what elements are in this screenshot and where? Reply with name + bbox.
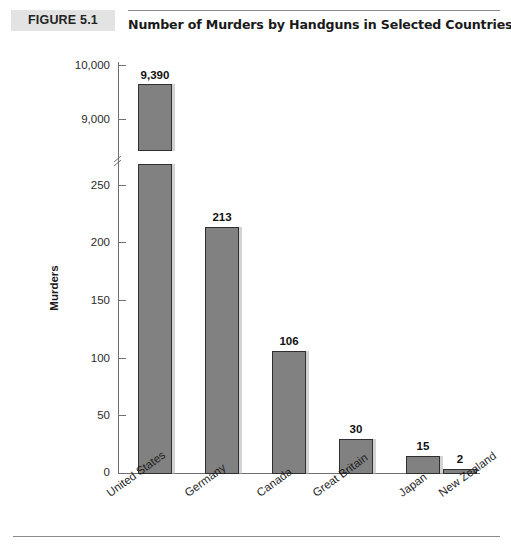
y-axis-title: Murders [48,228,60,348]
figure-number-badge: FIGURE 5.1 [11,10,115,31]
y-tick-label-250: 250 [52,180,110,191]
y-tick-label-50: 50 [52,410,110,421]
bar-value-canada: 106 [258,335,320,347]
y-tick-label-0: 0 [52,467,110,478]
figure-bottom-divider [13,536,500,537]
y-tick-label-150: 150 [52,295,110,306]
y-tick-250 [119,185,126,186]
y-axis-line [118,62,119,474]
bar-united-states-upper[interactable] [138,84,172,151]
y-tick-label-200: 200 [52,237,110,248]
y-tick-label-100: 100 [52,353,110,364]
y-tick-9000 [119,119,126,120]
bar-value-germany: 213 [191,211,253,223]
y-tick-50 [119,415,126,416]
bar-germany[interactable] [205,227,239,474]
y-tick-label-9000: 9,000 [52,114,110,125]
x-axis-label-japan: Japan [396,471,428,499]
y-tick-label-10000: 10,000 [52,60,110,71]
y-tick-200 [119,242,126,243]
figure-number-label: FIGURE 5.1 [11,10,115,31]
figure-title: Number of Murders by Handguns in Selecte… [128,17,503,32]
bar-value-united-states: 9,390 [124,69,186,81]
y-tick-100 [119,358,126,359]
bar-united-states-lower[interactable] [138,164,172,474]
figure-header: FIGURE 5.1 Number of Murders by Handguns… [0,0,511,52]
bar-canada[interactable] [272,351,306,474]
axis-break-icon [112,150,128,170]
y-tick-10000 [119,65,126,66]
bar-value-japan: 15 [392,440,454,452]
title-divider [128,10,500,11]
chart-plot-area: 10,000 9,000 250 200 150 100 50 0 Murder… [0,52,511,492]
bar-value-great-britain: 30 [325,423,387,435]
y-tick-150 [119,300,126,301]
